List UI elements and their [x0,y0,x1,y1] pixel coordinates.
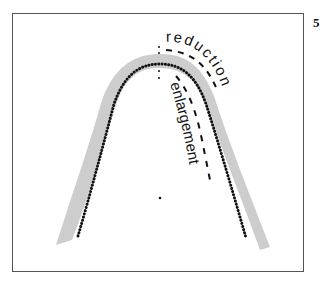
center-point [159,197,162,200]
arch-diagram: reduction enlargement [0,0,330,283]
gray-band [56,54,270,250]
dotted-centerline [78,64,246,238]
